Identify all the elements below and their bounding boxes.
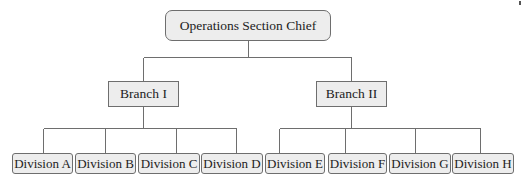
division-g-node: Division G (389, 153, 451, 174)
division-f-node: Division F (328, 153, 387, 174)
node-label: Division H (454, 156, 511, 172)
division-a-node: Division A (12, 153, 73, 174)
branch-2-node: Branch II (316, 81, 387, 107)
division-h-node: Division H (452, 153, 514, 174)
node-label: Division G (391, 156, 448, 172)
node-label: Division B (77, 156, 134, 172)
node-label: Division D (203, 156, 260, 172)
node-label: Operations Section Chief (180, 18, 316, 34)
node-label: Division E (267, 156, 323, 172)
node-label: Division C (141, 156, 198, 172)
division-c-node: Division C (138, 153, 200, 174)
division-e-node: Division E (265, 153, 325, 174)
node-label: Division F (330, 156, 385, 172)
node-label: Branch I (120, 86, 167, 102)
edge-artifact-mark (519, 1, 521, 5)
branch-1-node: Branch I (108, 81, 179, 107)
operations-section-chief-node: Operations Section Chief (165, 10, 331, 41)
division-b-node: Division B (75, 153, 136, 174)
node-label: Branch II (326, 86, 377, 102)
node-label: Division A (14, 156, 71, 172)
division-d-node: Division D (201, 153, 263, 174)
